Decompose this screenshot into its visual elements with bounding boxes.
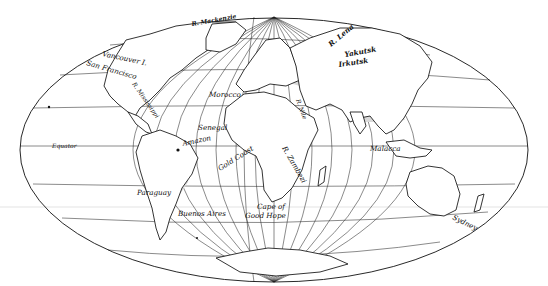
label-gold-coast: Gold Coast bbox=[216, 144, 255, 173]
label-senegal: Senegal bbox=[198, 123, 227, 132]
central-america bbox=[128, 112, 152, 134]
label-equator: Equator bbox=[51, 142, 78, 150]
antarctica bbox=[216, 248, 348, 276]
world-map: R. Mackenzie Vancouver I. San Francisco … bbox=[0, 0, 548, 286]
island-dot-pacific bbox=[48, 106, 50, 108]
australia bbox=[406, 166, 460, 216]
label-morocco: Morocco bbox=[208, 90, 242, 99]
label-cape-of: Cape of bbox=[257, 202, 286, 211]
label-paraguay: Paraguay bbox=[136, 188, 172, 197]
amazon-mouth-marker bbox=[176, 148, 179, 151]
madagascar bbox=[318, 166, 326, 186]
greenland bbox=[206, 22, 246, 52]
continents bbox=[104, 22, 484, 276]
new-zealand bbox=[474, 194, 484, 212]
label-good-hope: Good Hope bbox=[245, 211, 286, 220]
island-dot-falklands bbox=[196, 237, 198, 239]
europe bbox=[236, 38, 300, 92]
label-malacca: Malacca bbox=[369, 144, 401, 153]
label-buenos-aires: Buenos Aires bbox=[177, 209, 226, 218]
label-sydney: Sydney bbox=[451, 213, 480, 233]
